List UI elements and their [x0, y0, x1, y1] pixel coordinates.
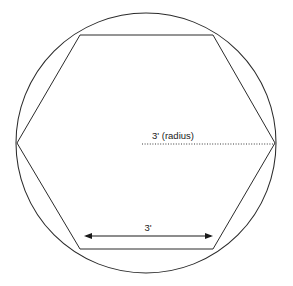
geometry-diagram: 3' (radius) 3' [0, 0, 293, 286]
side-length-label: 3' [144, 222, 151, 233]
arrow-head-left-icon [84, 233, 92, 239]
circumscribed-circle [16, 13, 276, 273]
arrow-head-right-icon [205, 233, 213, 239]
diagram-canvas: 3' (radius) 3' [0, 0, 293, 286]
inscribed-hexagon [17, 35, 275, 249]
radius-label: 3' (radius) [152, 130, 194, 141]
side-dimension-arrow [84, 233, 213, 239]
